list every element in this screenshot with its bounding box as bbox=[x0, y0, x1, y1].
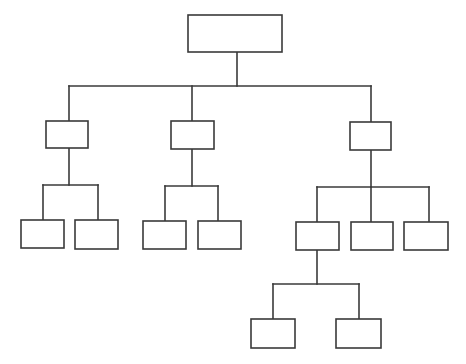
org-node-c1b bbox=[336, 319, 381, 348]
org-node-c1a bbox=[251, 319, 295, 348]
org-node-a1 bbox=[21, 220, 64, 248]
connector-lines bbox=[43, 52, 429, 319]
org-node-c2 bbox=[351, 222, 393, 250]
org-node-c bbox=[350, 122, 391, 150]
org-node-c1 bbox=[296, 222, 339, 250]
org-node-a2 bbox=[75, 220, 118, 249]
org-node-a bbox=[46, 121, 88, 148]
org-node-b2 bbox=[198, 221, 241, 249]
org-chart-svg bbox=[0, 0, 466, 364]
org-node-root bbox=[188, 15, 282, 52]
org-node-c3 bbox=[404, 222, 448, 250]
org-chart-diagram bbox=[0, 0, 466, 364]
node-boxes bbox=[21, 15, 448, 348]
org-node-b bbox=[171, 121, 214, 149]
org-node-b1 bbox=[143, 221, 186, 249]
